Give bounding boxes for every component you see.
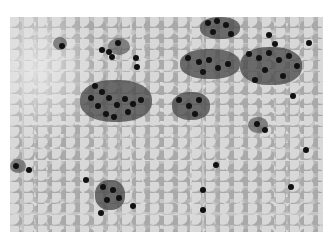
nucleus [214,18,220,24]
nucleus [213,162,219,168]
nucleus [266,32,272,38]
nucleus [88,95,94,101]
nucleus [185,55,191,61]
nucleus [138,97,144,103]
nucleus [26,167,32,173]
nucleus [266,50,272,56]
nucleus [200,207,206,213]
nucleus [210,29,216,35]
nucleus [262,67,268,73]
nucleus [99,47,105,53]
nucleus [100,184,106,190]
nucleus [306,40,312,46]
nucleus [186,103,192,109]
nucleus [290,93,296,99]
micrograph [10,17,323,232]
nucleus [130,101,136,107]
nucleus [196,97,202,103]
nucleus [99,89,105,95]
nucleus [83,177,89,183]
nucleus [95,103,101,109]
nucleus [133,55,139,61]
nucleus [262,127,268,133]
nucleus [109,54,115,60]
nucleus [115,40,121,46]
nucleus [252,77,258,83]
nucleus [286,53,292,59]
nucleus [246,51,252,57]
nucleus [122,96,128,102]
nucleus [104,197,110,203]
nucleus [223,22,229,28]
nucleus [192,111,198,117]
nucleus [280,73,286,79]
nucleus [59,43,65,49]
nucleus [225,61,231,67]
nucleus [206,57,212,63]
nucleus [200,69,206,75]
nucleus [98,210,104,216]
nucleus [111,114,117,120]
nucleus [215,65,221,71]
nucleus [13,163,19,169]
light-region [10,17,100,147]
nucleus [303,147,309,153]
nucleus [92,83,98,89]
nucleus [254,121,260,127]
nucleus [276,57,282,63]
nucleus [176,97,182,103]
cell-cluster [180,49,240,79]
nucleus [125,109,131,115]
nucleus [116,195,122,201]
nucleus [200,187,206,193]
nucleus [130,203,136,209]
nucleus [256,55,262,61]
nucleus [114,102,120,108]
nucleus [134,64,140,70]
nucleus [294,63,300,69]
nucleus [228,31,234,37]
nucleus [196,59,202,65]
nucleus [110,187,116,193]
nucleus [103,111,109,117]
nucleus [205,20,211,26]
nucleus [288,184,294,190]
nucleus [272,41,278,47]
nucleus [106,95,112,101]
